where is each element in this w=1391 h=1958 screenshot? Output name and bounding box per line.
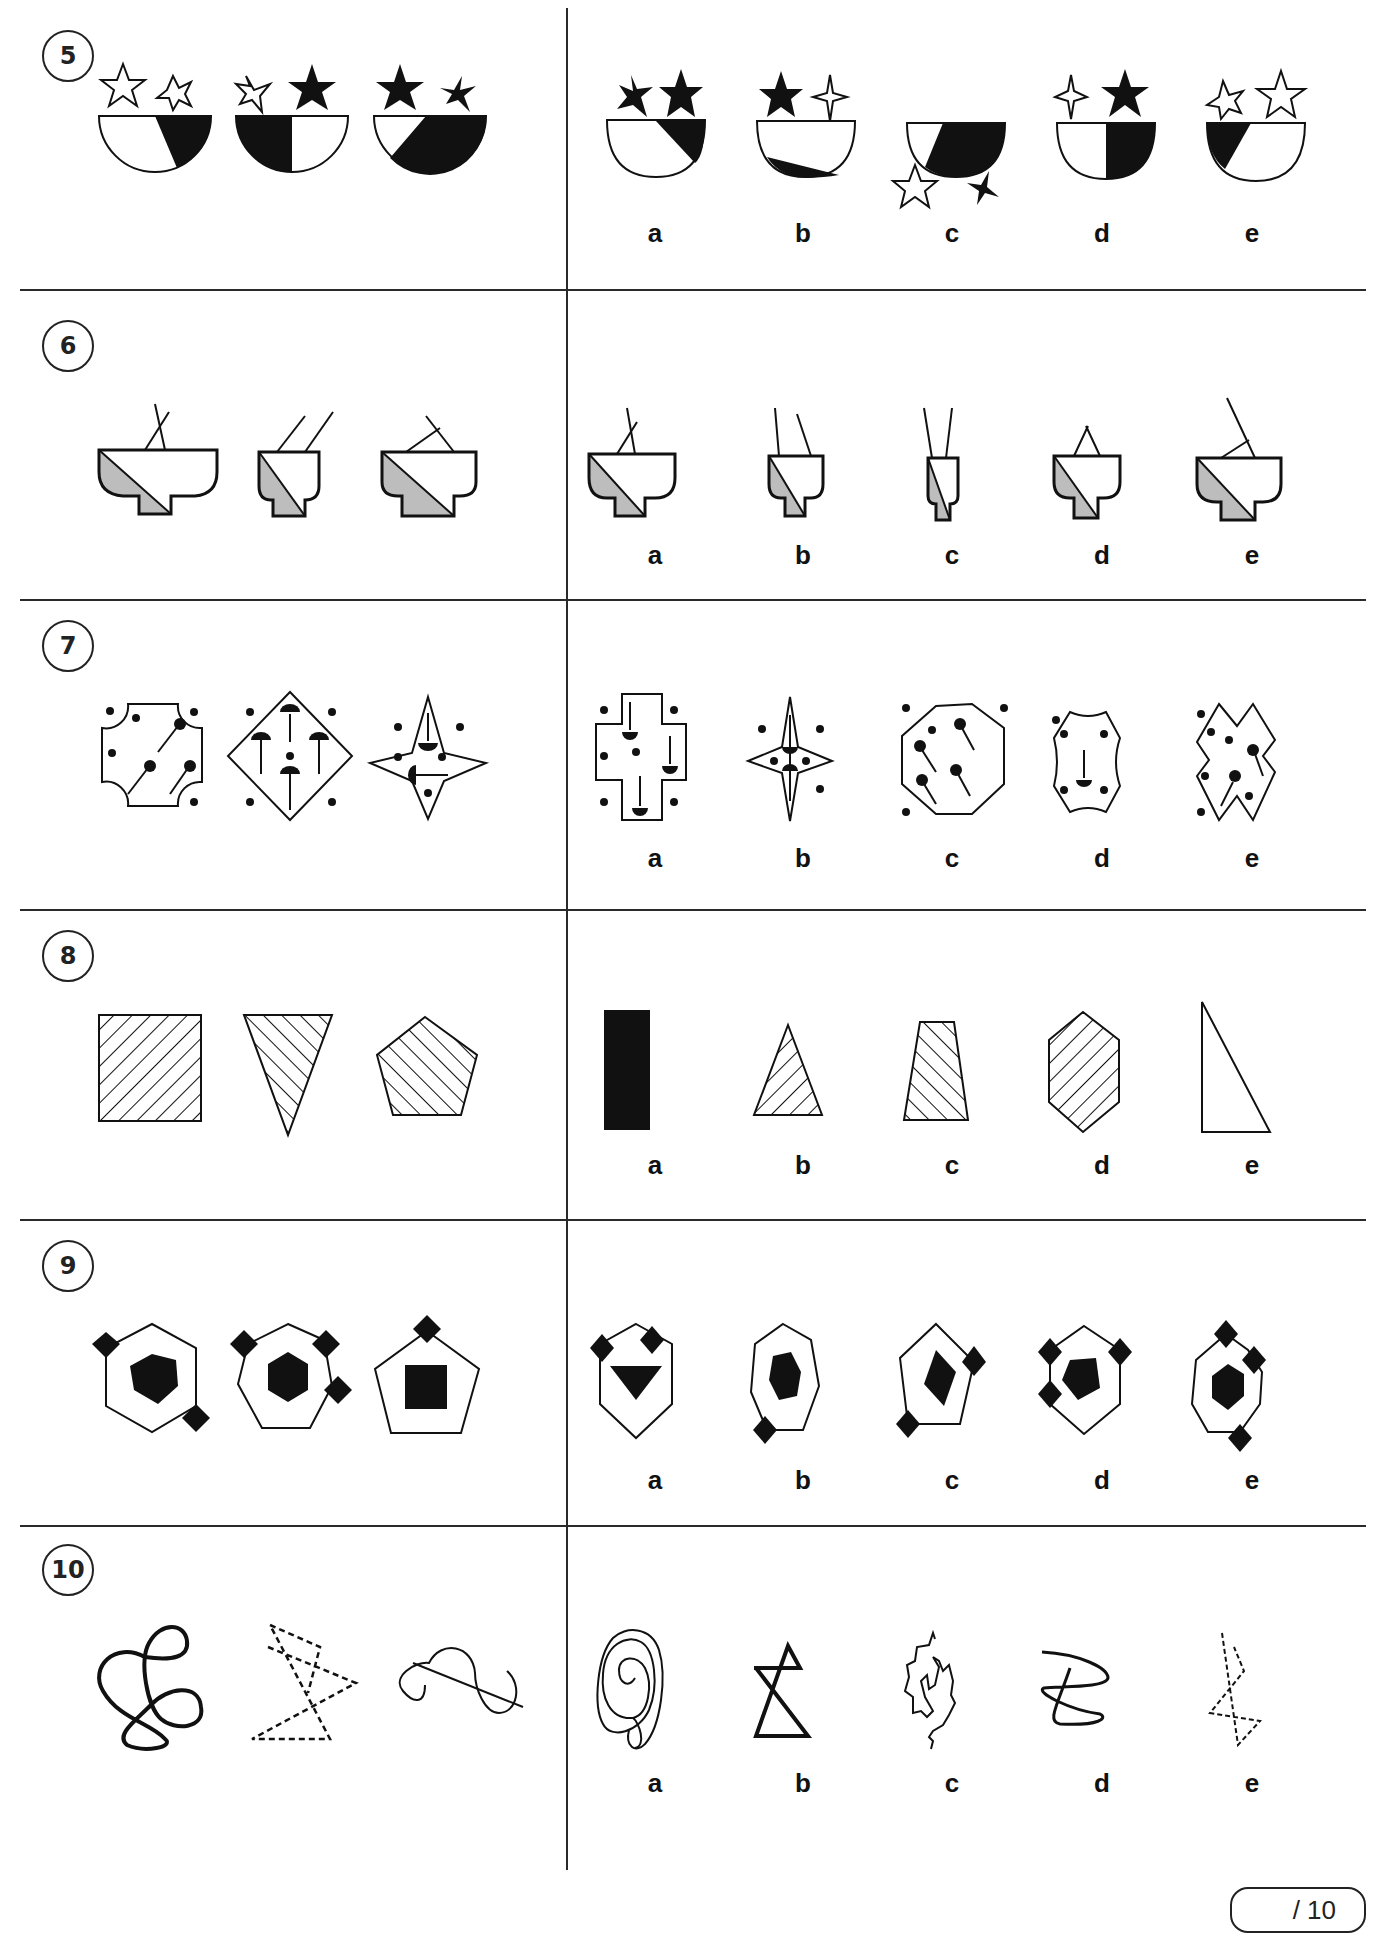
example-figure — [92, 1320, 217, 1440]
example-figure — [378, 400, 488, 520]
option-label: d — [1082, 540, 1122, 571]
option-label: e — [1232, 218, 1272, 249]
example-figure — [97, 1013, 203, 1123]
example-figure — [250, 1621, 365, 1751]
option-figure-e[interactable] — [1200, 1000, 1272, 1134]
example-figure — [228, 690, 358, 825]
example-figure — [395, 1641, 525, 1721]
row-divider — [20, 909, 1366, 911]
option-figure-d[interactable] — [1047, 1010, 1121, 1134]
option-label: c — [932, 218, 972, 249]
option-label: e — [1232, 1465, 1272, 1496]
question-number: 7 — [42, 620, 94, 672]
option-figure-c[interactable] — [902, 1020, 972, 1122]
example-figure — [375, 1015, 479, 1119]
option-figure-e[interactable] — [1193, 700, 1283, 825]
example-figure — [232, 60, 352, 180]
option-label: d — [1082, 1150, 1122, 1181]
question-number: 8 — [42, 930, 94, 982]
option-label: a — [635, 1465, 675, 1496]
row-divider — [20, 1219, 1366, 1221]
option-figure-a[interactable] — [585, 400, 685, 520]
option-label: b — [783, 1768, 823, 1799]
option-figure-c[interactable] — [898, 1320, 988, 1444]
option-figure-b[interactable] — [765, 400, 845, 520]
option-figure-b[interactable] — [745, 1320, 825, 1444]
option-figure-a[interactable] — [592, 1320, 682, 1440]
option-figure-c[interactable] — [903, 1631, 963, 1751]
option-figure-a[interactable] — [595, 1626, 665, 1756]
row-divider — [20, 289, 1366, 291]
example-figure — [95, 1621, 210, 1751]
option-figure-c[interactable] — [900, 700, 1010, 820]
question-number: 6 — [42, 320, 94, 372]
option-figure-d[interactable] — [1045, 65, 1165, 185]
example-figure — [368, 695, 493, 825]
option-label: d — [1082, 843, 1122, 874]
question-number: 5 — [42, 30, 94, 82]
option-label: d — [1082, 218, 1122, 249]
option-figure-a[interactable] — [592, 690, 692, 825]
option-label: b — [783, 1150, 823, 1181]
option-label: c — [932, 1768, 972, 1799]
example-figure — [95, 60, 215, 180]
column-divider — [566, 8, 568, 1870]
row-divider — [20, 599, 1366, 601]
option-figure-e[interactable] — [1195, 65, 1315, 185]
option-label: e — [1232, 1768, 1272, 1799]
option-label: a — [635, 1768, 675, 1799]
option-label: b — [783, 540, 823, 571]
option-label: e — [1232, 1150, 1272, 1181]
example-figure — [255, 400, 335, 520]
row-divider — [20, 1525, 1366, 1527]
option-figure-d[interactable] — [1040, 1646, 1120, 1736]
option-label: b — [783, 218, 823, 249]
example-figure — [373, 1315, 483, 1440]
option-label: d — [1082, 1768, 1122, 1799]
example-figure — [242, 1013, 334, 1137]
option-label: a — [635, 540, 675, 571]
option-figure-b[interactable] — [740, 695, 840, 825]
option-figure-d[interactable] — [1040, 1320, 1130, 1444]
option-figure-d[interactable] — [1050, 400, 1140, 524]
option-label: c — [932, 843, 972, 874]
option-label: e — [1232, 540, 1272, 571]
example-figure — [95, 400, 225, 520]
option-label: b — [783, 843, 823, 874]
question-number: 10 — [42, 1544, 94, 1596]
option-figure-d[interactable] — [1048, 708, 1128, 818]
option-label: a — [635, 1150, 675, 1181]
option-label: d — [1082, 1465, 1122, 1496]
question-number: 9 — [42, 1240, 94, 1292]
option-label: c — [932, 540, 972, 571]
option-figure-a[interactable] — [595, 65, 715, 185]
option-figure-e[interactable] — [1208, 1631, 1268, 1751]
option-figure-b[interactable] — [745, 65, 865, 185]
option-label: a — [635, 843, 675, 874]
option-figure-e[interactable] — [1193, 390, 1293, 526]
example-figure — [370, 60, 490, 180]
option-figure-a[interactable] — [602, 1008, 652, 1132]
option-label: a — [635, 218, 675, 249]
option-figure-b[interactable] — [752, 1023, 824, 1117]
option-label: e — [1232, 843, 1272, 874]
example-figure — [100, 700, 210, 815]
option-label: c — [932, 1465, 972, 1496]
option-label: b — [783, 1465, 823, 1496]
score-box: / 10 — [1230, 1887, 1366, 1933]
example-figure — [230, 1320, 360, 1440]
option-figure-b[interactable] — [752, 1644, 814, 1740]
option-figure-c[interactable] — [895, 65, 1015, 215]
option-label: c — [932, 1150, 972, 1181]
option-figure-c[interactable] — [922, 400, 982, 524]
option-figure-e[interactable] — [1188, 1320, 1278, 1460]
